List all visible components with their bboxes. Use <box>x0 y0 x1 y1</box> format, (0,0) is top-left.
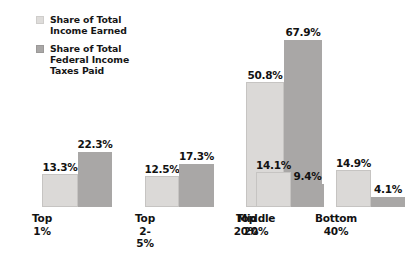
bar-value-label: 12.5% <box>145 163 180 175</box>
bar-pair: 13.3% 22.3% <box>42 152 112 207</box>
bar-dark: 9.4% <box>291 184 324 207</box>
bar-light: 13.3% <box>42 174 78 207</box>
bar-value-label: 17.3% <box>179 150 214 162</box>
bar-value-label: 50.8% <box>248 69 283 81</box>
bar-value-label: 14.9% <box>336 157 371 169</box>
bar-value-label: 67.9% <box>286 26 321 38</box>
bar-value-label: 4.1% <box>374 183 402 195</box>
bar-pair: 14.9% 4.1% <box>336 170 405 207</box>
bar-value-label: 22.3% <box>78 138 113 150</box>
bar-light: 12.5% <box>145 176 179 207</box>
bar-pair: 14.1% 9.4% <box>256 172 324 207</box>
category-label: Bottom 40% <box>315 212 357 237</box>
bar-light: 14.9% <box>336 170 371 207</box>
category-label: Top 1% <box>32 212 52 237</box>
bar-chart: Share of Total Income Earned Share of To… <box>0 0 414 256</box>
bar-pair: 12.5% 17.3% <box>145 164 214 207</box>
bar-dark: 4.1% <box>371 197 405 207</box>
bar-light: 14.1% <box>256 172 291 207</box>
bar-value-label: 9.4% <box>294 170 322 182</box>
bar-value-label: 13.3% <box>43 161 78 173</box>
bar-dark: 22.3% <box>78 152 112 207</box>
category-label: Middle 20% <box>237 212 276 237</box>
bar-value-label: 14.1% <box>256 159 291 171</box>
plot-area: 13.3% 22.3% Top 1% 12.5% 17.3% Top 2-5% <box>0 0 414 256</box>
category-label: Top 2-5% <box>135 212 155 250</box>
bar-dark: 17.3% <box>179 164 214 207</box>
